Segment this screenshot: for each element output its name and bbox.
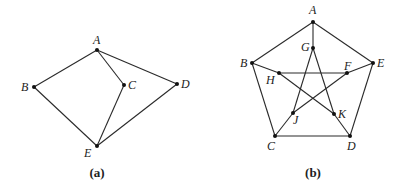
vertex-label-A: A bbox=[308, 3, 317, 17]
edge-B-E bbox=[34, 87, 97, 146]
vertex-C bbox=[122, 83, 126, 87]
vertex-label-C: C bbox=[128, 78, 137, 92]
graph-a: ABCDE (a) bbox=[21, 33, 190, 180]
edge-B-H bbox=[252, 63, 279, 73]
vertex-D bbox=[348, 134, 352, 138]
vertex-C bbox=[273, 134, 277, 138]
vertex-label-C: C bbox=[267, 139, 276, 153]
edge-G-K bbox=[313, 48, 334, 114]
vertex-label-H: H bbox=[265, 73, 276, 87]
vertex-G bbox=[311, 46, 315, 50]
edge-C-J bbox=[275, 113, 293, 136]
vertex-H bbox=[277, 71, 281, 75]
vertex-A bbox=[95, 48, 99, 52]
graph-b-caption: (b) bbox=[305, 165, 321, 180]
graph-b: ABCDEGHFJK (b) bbox=[240, 3, 385, 180]
vertex-label-J: J bbox=[293, 113, 299, 127]
vertex-label-K: K bbox=[337, 107, 347, 121]
vertex-E bbox=[371, 61, 375, 65]
edge-D-E bbox=[350, 63, 373, 136]
edge-G-J bbox=[293, 48, 313, 113]
vertex-B bbox=[250, 61, 254, 65]
vertex-label-B: B bbox=[240, 56, 248, 70]
vertex-label-A: A bbox=[92, 33, 101, 47]
edge-D-E bbox=[97, 84, 177, 146]
graph-a-edges bbox=[34, 50, 177, 146]
vertex-D bbox=[175, 82, 179, 86]
graph-a-labels: ABCDE bbox=[21, 33, 190, 160]
vertex-label-E: E bbox=[376, 56, 385, 70]
vertex-A bbox=[311, 20, 315, 24]
edge-E-A bbox=[313, 22, 373, 63]
vertex-label-D: D bbox=[180, 77, 190, 91]
vertex-label-G: G bbox=[301, 40, 310, 54]
vertex-B bbox=[32, 85, 36, 89]
vertex-label-E: E bbox=[83, 146, 92, 160]
graph-a-caption: (a) bbox=[89, 165, 104, 180]
vertex-label-B: B bbox=[21, 80, 29, 94]
edge-C-E bbox=[97, 85, 124, 146]
edge-A-B bbox=[34, 50, 97, 87]
graph-a-vertices bbox=[32, 48, 179, 148]
edge-A-D bbox=[97, 50, 177, 84]
vertex-label-F: F bbox=[343, 59, 352, 73]
vertex-label-D: D bbox=[346, 139, 356, 153]
edge-H-K bbox=[279, 73, 334, 114]
vertex-K bbox=[332, 112, 336, 116]
vertex-E bbox=[95, 144, 99, 148]
graph-figure: ABCDE (a) ABCDEGHFJK (b) bbox=[0, 0, 406, 191]
